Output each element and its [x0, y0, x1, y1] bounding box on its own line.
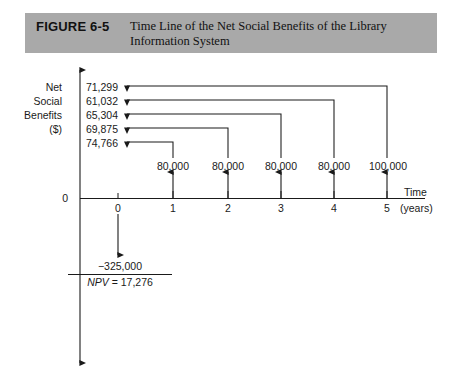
discount-connectors: [127, 86, 387, 158]
y-axis-title-line-1: Net: [0, 80, 62, 94]
npv-equals-sign: =: [109, 276, 121, 288]
x-axis-title: Time: [404, 186, 427, 198]
cash-flow-label-year-2: 80,000: [198, 160, 258, 172]
year-label-2: 2: [213, 202, 243, 214]
year-label-4: 4: [319, 202, 349, 214]
discount-connector-year-2: [127, 128, 228, 158]
discount-connector-year-5: [127, 86, 387, 158]
x-axis-units: (years): [400, 202, 433, 214]
discounted-value-year-4: 61,032: [66, 94, 118, 108]
npv-block: −325,000 NPV = 17,276: [68, 260, 172, 289]
y-axis-zero-label: 0: [52, 192, 68, 204]
cash-flow-label-year-3: 80,000: [251, 160, 311, 172]
discount-connector-year-3: [127, 114, 281, 158]
y-axis-title-line-4: ($): [0, 122, 62, 136]
year-label-0: 0: [103, 202, 133, 214]
npv-amount: 17,276: [121, 276, 153, 288]
diagram-canvas: [0, 0, 457, 381]
cash-flow-label-year-1: 80,000: [143, 160, 203, 172]
discounted-value-year-3: 65,304: [66, 108, 118, 122]
figure-container: FIGURE 6-5 Time Line of the Net Social B…: [0, 0, 457, 381]
year-label-3: 3: [266, 202, 296, 214]
discount-connector-year-4: [127, 100, 334, 158]
timeline-diagram: [0, 0, 457, 381]
npv-acronym: NPV: [87, 276, 109, 288]
initial-investment-value: −325,000: [68, 260, 172, 274]
y-axis-title: Net Social Benefits ($): [0, 80, 62, 136]
discounted-values-column: 71,299 61,032 65,304 69,875 74,766: [66, 80, 118, 150]
x-axis: [80, 191, 425, 199]
discount-connector-year-1: [127, 142, 173, 158]
npv-result: NPV = 17,276: [68, 275, 172, 289]
year-label-5: 5: [372, 202, 402, 214]
discounted-value-year-5: 71,299: [66, 80, 118, 94]
y-axis-title-line-2: Social: [0, 94, 62, 108]
cash-inflow-arrows: [173, 172, 387, 198]
cash-flow-label-year-5: 100,000: [358, 160, 418, 172]
cash-flow-label-year-4: 80,000: [304, 160, 364, 172]
discounted-value-year-2: 69,875: [66, 122, 118, 136]
y-axis-title-line-3: Benefits: [0, 108, 62, 122]
year-label-1: 1: [158, 202, 188, 214]
discounted-value-year-1: 74,766: [66, 136, 118, 150]
